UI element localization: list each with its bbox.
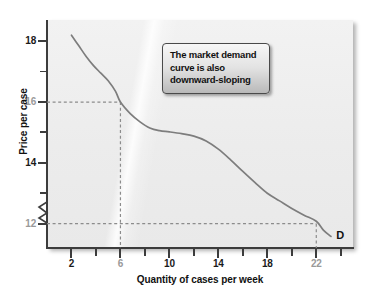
y-tick-16 [38, 101, 47, 103]
x-label-14: 14 [203, 258, 233, 269]
x-tick-minor-24 [340, 249, 342, 256]
x-label-22: 22 [301, 258, 331, 269]
x-tick-minor-12 [193, 249, 195, 256]
x-tick-6 [119, 249, 121, 258]
x-tick-minor-20 [291, 249, 293, 256]
y-label-18: 18 [25, 35, 36, 46]
x-label-10: 10 [154, 258, 184, 269]
market-demand-callout: The market demand curve is also downward… [162, 43, 270, 94]
x-label-18: 18 [252, 258, 282, 269]
x-label-6: 6 [105, 258, 135, 269]
x-tick-minor-4 [95, 249, 97, 256]
y-tick-14 [38, 162, 47, 164]
x-tick-10 [168, 249, 170, 258]
x-tick-18 [266, 249, 268, 258]
callout-line-3: downward-sloping [170, 74, 263, 87]
callout-line-2: curve is also [170, 62, 263, 75]
x-tick-14 [217, 249, 219, 258]
y-tick-15 [40, 131, 47, 133]
y-tick-13 [40, 192, 47, 194]
x-tick-22 [315, 249, 317, 258]
x-label-2: 2 [56, 258, 86, 269]
y-tick-17 [40, 71, 47, 73]
x-axis-title: Quantity of cases per week [47, 274, 353, 285]
x-tick-2 [70, 249, 72, 258]
y-axis-title: Price per case [18, 72, 29, 172]
x-tick-minor-16 [242, 249, 244, 256]
callout-line-1: The market demand [170, 49, 263, 62]
demand-curve-figure: 18161412 2610141822 D Price per case Qua… [0, 0, 379, 298]
y-tick-18 [38, 40, 47, 42]
y-label-12: 12 [25, 218, 36, 229]
y-tick-12 [38, 223, 47, 225]
x-tick-minor-8 [144, 249, 146, 256]
curve-label-d: D [336, 229, 344, 241]
guide-lines [47, 102, 316, 248]
